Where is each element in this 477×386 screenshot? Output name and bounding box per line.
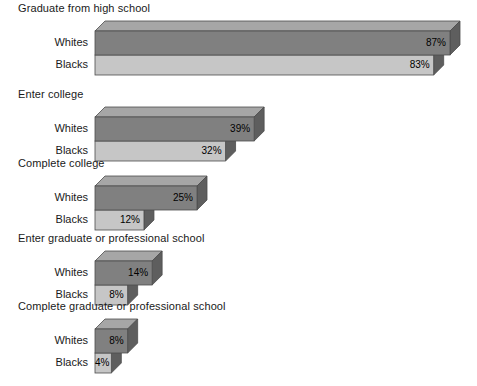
bar-group: Enter collegeWhites39%Blacks32% [0, 88, 477, 167]
bar-group: Graduate from high schoolWhites87%Blacks… [0, 2, 477, 81]
series-label-whites: Whites [2, 36, 88, 48]
bar-value-label: 87% [95, 37, 446, 48]
bar-value-label: 25% [95, 192, 193, 203]
series-label-whites: Whites [2, 266, 88, 278]
series-label-blacks: Blacks [2, 356, 88, 368]
series-label-whites: Whites [2, 334, 88, 346]
bar-value-label: 4% [95, 357, 107, 368]
whites-bar-top-face [95, 251, 162, 261]
series-label-blacks: Blacks [2, 144, 88, 156]
series-label-blacks: Blacks [2, 213, 88, 225]
bar-value-label: 39% [95, 123, 250, 134]
bar-group: Complete collegeWhites25%Blacks12% [0, 157, 477, 236]
bar-value-label: 12% [95, 214, 140, 225]
bar-value-label: 32% [95, 145, 222, 156]
bar-value-label: 8% [95, 289, 124, 300]
bar-value-label: 14% [95, 267, 148, 278]
bar-chart: Graduate from high schoolWhites87%Blacks… [0, 0, 477, 386]
bar-value-label: 83% [95, 59, 430, 70]
whites-bar-top-face [95, 176, 207, 186]
bar-value-label: 8% [95, 335, 124, 346]
series-label-blacks: Blacks [2, 58, 88, 70]
series-label-whites: Whites [2, 191, 88, 203]
series-label-whites: Whites [2, 122, 88, 134]
whites-bar-top-face [95, 21, 460, 31]
bar-group: Complete graduate or professional school… [0, 300, 477, 379]
series-label-blacks: Blacks [2, 288, 88, 300]
whites-bar-top-face [95, 107, 264, 117]
